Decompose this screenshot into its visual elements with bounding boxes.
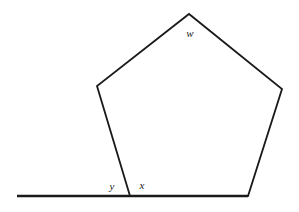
geometry-figure: w y x: [0, 0, 299, 212]
angle-label-x: x: [139, 179, 145, 191]
diagram-canvas: w y x: [0, 0, 299, 212]
angle-label-w: w: [186, 27, 194, 39]
angle-label-y: y: [109, 180, 115, 192]
pentagon-outline: [97, 14, 282, 196]
